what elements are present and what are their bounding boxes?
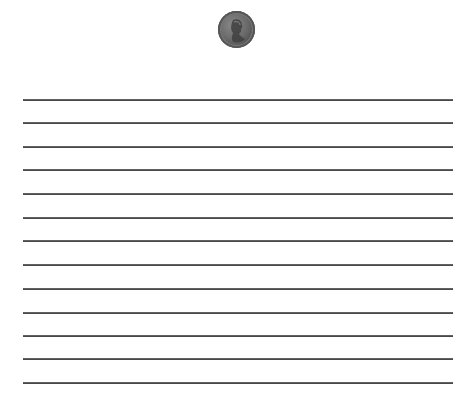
ruled-line [23, 240, 453, 242]
ruled-line [23, 312, 453, 314]
ruled-line [23, 264, 453, 266]
ruled-line [23, 99, 453, 101]
ruled-line [23, 358, 453, 360]
ruled-line [23, 217, 453, 219]
ruled-line [23, 193, 453, 195]
ruled-line [23, 122, 453, 124]
ruled-line [23, 288, 453, 290]
ruled-line [23, 169, 453, 171]
ruled-line [23, 382, 453, 384]
lincoln-profile-icon [218, 11, 255, 48]
ruled-line [23, 335, 453, 337]
penny-coin-icon [218, 11, 255, 48]
ruled-line [23, 146, 453, 148]
